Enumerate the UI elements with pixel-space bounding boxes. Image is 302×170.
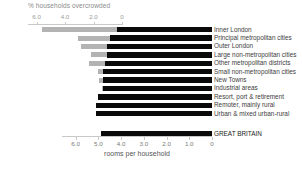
bar-rooms-per-household [110,35,212,40]
bottom-axis-title: rooms per household [104,150,170,157]
bottom-axis-ticks: 6.05.04.03.02.01.00 [62,137,212,149]
bar-rooms-per-household [105,61,212,66]
bar-rooms-per-household [96,111,212,116]
bottom-axis-tick-mark [98,137,99,140]
chart-row: Principal metropolitan cities [0,34,302,42]
bottom-axis-tick-label: 6.0 [71,140,80,147]
row-category-label: Outer London [214,42,253,49]
row-category-label: Urban & mixed urban-rural [214,110,289,117]
top-axis-tick-mark [122,22,123,25]
row-category-label: GREAT BRITAIN [214,130,262,137]
top-axis-title: % households overcrowded [28,2,110,9]
bottom-axis-tick-label: 3.0 [140,140,149,147]
top-axis-tick-label: 0 [120,13,123,20]
row-spacer [0,118,302,130]
top-axis-line [28,24,122,25]
overcrowding-rooms-bidirectional-bar-chart: % households overcrowded 02.04.06.0 Inne… [0,0,302,170]
row-category-label: Principal metropolitan cities [214,34,292,41]
row-category-label: Resort, port & retirement [214,93,284,100]
top-axis-tick-label: 6.0 [32,13,41,20]
bottom-axis-tick-label: 2.0 [162,140,171,147]
bar-rooms-per-household [103,77,212,82]
chart-row: Small non-metropolitan cities [0,68,302,76]
bar-rooms-per-household [103,86,212,91]
bottom-axis-tick-label: 0 [210,140,213,147]
bar-rooms-per-household [107,44,212,49]
bottom-axis-tick-label: 4.0 [117,140,126,147]
bottom-axis-tick-label: 5.0 [94,140,103,147]
top-axis-tick-label: 4.0 [61,13,70,20]
chart-row: Urban & mixed urban-rural [0,110,302,118]
chart-rows: Inner LondonPrincipal metropolitan citie… [0,26,302,139]
row-category-label: Other metropolitan districts [214,59,290,66]
bottom-axis-tick-mark [212,137,213,140]
row-category-label: New Towns [214,76,247,83]
bottom-axis-tick-mark [76,137,77,140]
bar-overcrowded [42,27,122,32]
bar-rooms-per-household [107,52,212,57]
row-category-label: Small non-metropolitan cities [214,68,296,75]
bottom-axis-tick-mark [167,137,168,140]
bottom-axis-tick-mark [121,137,122,140]
row-category-label: Inner London [214,26,252,33]
bar-rooms-per-household [96,103,212,108]
bar-rooms-per-household [103,69,212,74]
bar-rooms-per-household [117,27,212,32]
bottom-axis-tick-label: 1.0 [185,140,194,147]
bar-rooms-per-household [98,94,212,99]
bottom-axis-tick-mark [144,137,145,140]
row-category-label: Industrial areas [214,84,258,91]
row-category-label: Remoter, mainly rural [214,101,275,108]
top-axis-tick-label: 2.0 [89,13,98,20]
row-category-label: Large non-metropolitan cities [214,51,296,58]
bottom-axis-tick-mark [189,137,190,140]
